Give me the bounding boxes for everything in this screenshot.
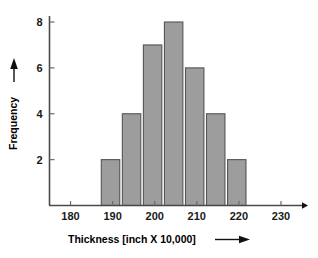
y-tick-label: 2 xyxy=(36,154,42,166)
histogram-bar xyxy=(122,114,140,206)
y-tick-label: 4 xyxy=(36,108,43,120)
y-tick-label: 6 xyxy=(36,62,42,74)
histogram-bar xyxy=(207,114,225,206)
histogram-bar xyxy=(101,160,119,206)
histogram-bar xyxy=(164,22,182,206)
x-tick-label: 180 xyxy=(61,210,79,222)
y-tick-label: 8 xyxy=(36,16,42,28)
y-axis-title: Frequency xyxy=(7,97,19,150)
x-axis-title: Thickness [inch X 10,000] xyxy=(68,233,196,245)
histogram-figure: 180190200210220230 2468 Frequency Thickn… xyxy=(0,0,318,258)
x-tick-label: 190 xyxy=(103,210,121,222)
histogram-canvas: 180190200210220230 2468 Frequency Thickn… xyxy=(0,0,318,258)
x-tick-label: 200 xyxy=(146,210,164,222)
histogram-bar xyxy=(143,45,161,206)
histogram-bar xyxy=(228,160,246,206)
histogram-bar xyxy=(185,68,203,206)
x-tick-label: 220 xyxy=(230,210,248,222)
x-tick-label: 210 xyxy=(188,210,206,222)
x-tick-label: 230 xyxy=(272,210,290,222)
